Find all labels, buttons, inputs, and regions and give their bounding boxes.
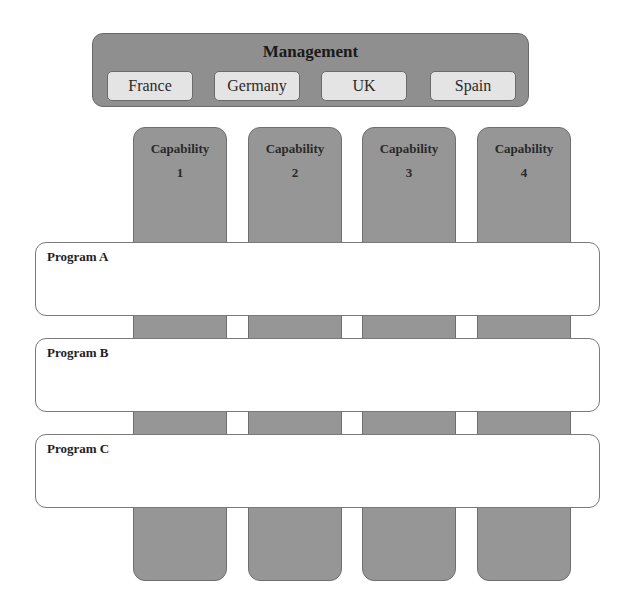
country-box-spain: Spain xyxy=(430,71,516,101)
program-label: Program A xyxy=(47,249,109,265)
capability-number: 1 xyxy=(134,161,226,185)
management-title: Management xyxy=(93,42,528,62)
capability-number: 2 xyxy=(249,161,341,185)
country-box-uk: UK xyxy=(321,71,407,101)
capability-title: Capability xyxy=(134,137,226,161)
program-label: Program C xyxy=(47,441,109,457)
country-box-germany: Germany xyxy=(214,71,300,101)
program-box-a: Program A xyxy=(35,242,600,316)
country-box-france: France xyxy=(107,71,193,101)
capability-label: Capability 2 xyxy=(249,137,341,185)
program-label: Program B xyxy=(47,345,109,361)
capability-title: Capability xyxy=(249,137,341,161)
capability-label: Capability 3 xyxy=(363,137,455,185)
program-box-b: Program B xyxy=(35,338,600,412)
capability-number: 4 xyxy=(478,161,570,185)
program-box-c: Program C xyxy=(35,434,600,508)
capability-title: Capability xyxy=(478,137,570,161)
management-box: Management France Germany UK Spain xyxy=(92,33,529,107)
capability-number: 3 xyxy=(363,161,455,185)
capability-label: Capability 1 xyxy=(134,137,226,185)
capability-title: Capability xyxy=(363,137,455,161)
capability-label: Capability 4 xyxy=(478,137,570,185)
